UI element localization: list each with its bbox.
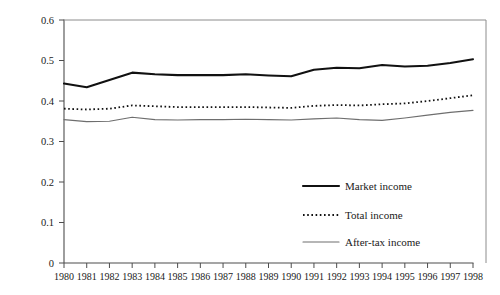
y-tick-label: 0.1 (41, 217, 54, 228)
y-tick-label: 0.5 (41, 55, 54, 66)
legend-label-2: Total income (345, 209, 403, 221)
y-tick-label: 0.2 (41, 177, 54, 188)
x-tick-label: 1992 (327, 271, 347, 282)
legend-label-1: Market income (345, 180, 412, 192)
x-tick-label: 1989 (259, 271, 279, 282)
line-chart: 00.10.20.30.40.50.6 19801981198219831984… (0, 0, 500, 295)
x-axis: 1980198119821983198419851986198719881989… (54, 263, 483, 282)
x-tick-label: 1993 (349, 271, 369, 282)
x-tick-label: 1980 (54, 271, 74, 282)
y-tick-label: 0 (49, 258, 54, 269)
x-tick-label: 1988 (236, 271, 256, 282)
x-tick-label: 1990 (281, 271, 301, 282)
series-market-income (64, 59, 473, 87)
x-tick-label: 1984 (145, 271, 165, 282)
x-tick-label: 1983 (122, 271, 142, 282)
x-tick-label: 1981 (77, 271, 97, 282)
x-tick-label: 1987 (213, 271, 233, 282)
series-layer (64, 59, 473, 121)
y-axis: 00.10.20.30.40.50.6 (41, 15, 64, 269)
series-total-income (64, 95, 473, 109)
series-after-tax-income (64, 110, 473, 121)
x-tick-label: 1985 (168, 271, 188, 282)
y-tick-label: 0.3 (41, 136, 54, 147)
x-tick-label: 1994 (372, 271, 392, 282)
x-tick-label: 1997 (440, 271, 460, 282)
x-tick-label: 1986 (190, 271, 210, 282)
chart-container: 00.10.20.30.40.50.6 19801981198219831984… (0, 0, 500, 295)
x-tick-label: 1996 (418, 271, 438, 282)
plot-frame (64, 20, 486, 263)
x-tick-label: 1982 (99, 271, 119, 282)
x-tick-label: 1991 (304, 271, 324, 282)
y-tick-label: 0.4 (41, 96, 55, 107)
x-tick-label: 1995 (395, 271, 415, 282)
x-tick-label: 1998 (463, 271, 483, 282)
chart-legend: Market incomeTotal incomeAfter-tax incom… (303, 180, 420, 248)
y-tick-label: 0.6 (41, 15, 54, 26)
legend-label-3: After-tax income (345, 236, 420, 248)
